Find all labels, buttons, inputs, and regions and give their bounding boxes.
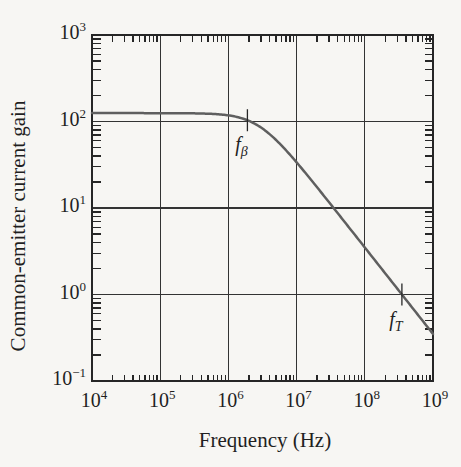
x-tick-label-10e6: 106 xyxy=(217,387,244,411)
current-gain-bode-figure: fβfT 104105106107108109 10310210110010−1… xyxy=(0,0,461,467)
y-tick-label-10e2: 102 xyxy=(60,106,87,130)
current-gain-frequency-chart: fβfT 104105106107108109 10310210110010−1… xyxy=(0,0,461,467)
x-tick-label-10e9: 109 xyxy=(422,387,449,411)
x-tick-label-10e8: 108 xyxy=(354,387,381,411)
gain-curve xyxy=(92,113,433,334)
f-beta-label: fβ xyxy=(235,133,248,159)
x-tick-labels: 104105106107108109 xyxy=(81,387,449,411)
y-tick-label-10e−1: 10−1 xyxy=(52,365,86,389)
grid-layer xyxy=(92,35,433,381)
x-tick-label-10e4: 104 xyxy=(81,387,108,411)
y-tick-label-10e1: 101 xyxy=(60,192,87,216)
y-axis-title: Common-emitter current gain xyxy=(6,100,30,351)
x-tick-label-10e5: 105 xyxy=(149,387,176,411)
y-tick-label-10e0: 100 xyxy=(60,279,87,303)
x-axis-title: Frequency (Hz) xyxy=(199,428,331,452)
x-tick-label-10e7: 107 xyxy=(285,387,312,411)
annotation-layer: fβfT xyxy=(235,109,404,333)
y-tick-labels: 10310210110010−1 xyxy=(52,19,86,389)
f-T-label: fT xyxy=(389,308,404,334)
y-tick-label-10e3: 103 xyxy=(60,19,87,43)
